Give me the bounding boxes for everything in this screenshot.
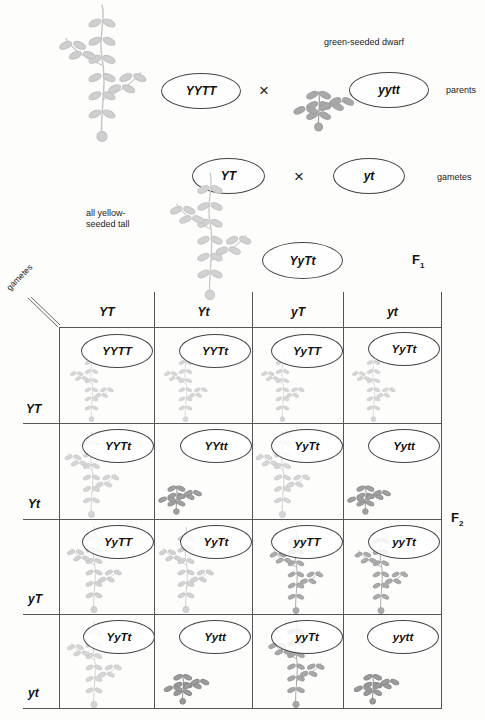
parent-dwarf-plant-illustration <box>290 72 360 136</box>
grid-line-bottom <box>23 708 442 709</box>
parent-tall-plant-illustration <box>42 2 162 142</box>
cell-3-3-genotype: yytt <box>367 620 439 654</box>
cell-1-3-dwarf-yellow-plant <box>345 472 395 518</box>
cell-2-2-genotype: yyTT <box>271 525 343 559</box>
grid-line-col-2 <box>252 327 253 709</box>
cell-0-2-genotype: YyTT <box>271 334 343 368</box>
grid-line-row-1 <box>23 423 442 424</box>
grid-line-top <box>59 327 442 328</box>
cell-3-0-genotype: YyTt <box>83 620 155 654</box>
row-header-0: YT <box>26 402 41 416</box>
grid-line-right <box>441 327 442 709</box>
parents-cross-symbol: × <box>259 82 269 99</box>
row-header-3: yt <box>28 686 39 700</box>
column-header-1: Yt <box>155 305 252 319</box>
punnett-corner-gametes-label: gametes <box>4 262 35 293</box>
grid-line-row-2 <box>23 519 442 520</box>
cell-3-3-dwarf-green-plant <box>350 660 405 708</box>
punnett-corner-diagonal <box>28 297 62 329</box>
cell-0-1-genotype: YYTt <box>179 334 251 368</box>
gamete-oval-yt-dominant: YT <box>192 158 265 194</box>
column-header-3: yt <box>344 305 441 319</box>
cell-2-0-genotype: YyTT <box>82 525 154 559</box>
f1-generation-label: F1 <box>412 252 424 270</box>
cell-1-2-genotype: YyTt <box>271 429 343 463</box>
gametes-cross-symbol: × <box>294 168 304 185</box>
cell-3-2-genotype: yyTt <box>271 620 343 654</box>
grid-line-col-3 <box>343 327 344 709</box>
f1-oval-yytt: YyTt <box>262 242 343 279</box>
green-seeded-dwarf-label: green-seeded dwarf <box>324 37 404 48</box>
cell-3-1-dwarf-yellow-plant <box>160 660 215 708</box>
grid-line-row-3 <box>23 614 442 615</box>
f2-generation-label: F2 <box>451 510 463 528</box>
row-header-1: Yt <box>28 497 40 511</box>
cell-1-3-genotype: Yytt <box>368 429 440 463</box>
gamete-oval-yt-recessive: yt <box>333 158 405 194</box>
gametes-label: gametes <box>437 172 472 183</box>
parent-oval-yytt-dominant: YYTT <box>161 73 241 109</box>
row-header-2: yT <box>28 592 42 606</box>
cell-0-3-genotype: YyTt <box>368 332 440 366</box>
parent-oval-yytt-recessive: yytt <box>349 72 429 108</box>
f1-description: all yellow- seeded tall <box>86 208 130 230</box>
cell-3-1-genotype: Yytt <box>179 620 251 654</box>
cell-1-1-dwarf-yellow-plant <box>156 472 206 518</box>
cell-1-1-genotype: YYtt <box>180 429 252 463</box>
cell-2-3-genotype: yyTt <box>368 525 440 559</box>
column-header-0: YT <box>60 305 154 319</box>
cell-1-0-genotype: YYTt <box>82 429 154 463</box>
cell-2-1-genotype: YyTt <box>180 525 252 559</box>
f1-description-line1: all yellow- <box>86 208 130 219</box>
grid-line-left <box>59 327 60 709</box>
grid-line-col-1 <box>154 327 155 709</box>
cell-0-0-genotype: YYTT <box>81 334 153 368</box>
column-header-2: yT <box>253 305 343 319</box>
parents-label: parents <box>446 85 476 96</box>
grid-col-sep-4-top <box>441 292 442 327</box>
f1-description-line2: seeded tall <box>86 219 130 230</box>
